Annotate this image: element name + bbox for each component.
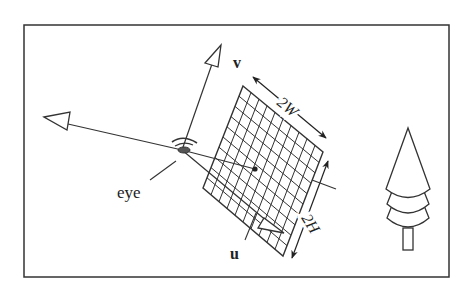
u-axis-arrow [182,150,284,233]
camera-diagram: eye v u 2W 2W 2H 2H [0,0,473,297]
eye-leader-line [150,161,176,180]
eye-icon [172,138,197,153]
u-leader-line [245,213,256,240]
center-point [252,166,257,171]
tree-icon [386,128,430,250]
eye-label: eye [117,183,141,202]
backward-axis-arrow [44,112,182,150]
u-label: u [230,245,239,262]
view-plane-grid [203,86,323,256]
height-label-text: 2H [298,211,324,238]
v-axis-arrow [182,45,221,150]
v-label: v [233,54,241,71]
